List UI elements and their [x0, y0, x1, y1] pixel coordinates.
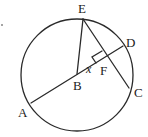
circle-geometry-diagram: E D F x B C A [0, 0, 148, 137]
label-B: B [73, 78, 82, 93]
label-A: A [18, 105, 28, 120]
label-C: C [134, 85, 143, 100]
label-E: E [78, 1, 86, 16]
stray-dot [1, 24, 3, 26]
label-x: x [85, 62, 92, 76]
right-angle-marker [92, 51, 102, 63]
label-D: D [126, 35, 135, 50]
label-F: F [100, 63, 107, 78]
radius-BE [77, 19, 83, 74]
